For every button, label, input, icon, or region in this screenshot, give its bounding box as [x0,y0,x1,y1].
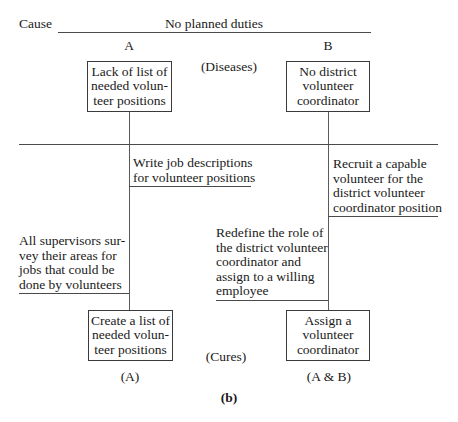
cause-label: Cause [19,17,52,32]
disease-box-b-text: No district volunteer coordinator [297,65,359,109]
divider-line [19,144,438,145]
step-recruit-line [328,216,438,217]
cure-box-b-text: Assign a volunteer coordinator [297,314,359,358]
cause-line [58,32,371,33]
cure-tag-b: (A & B) [300,370,358,385]
step-write-job-line [129,186,251,187]
cure-tag-a: (A) [110,370,150,385]
spine-b [328,112,329,310]
step-redefine-line [216,300,328,301]
cause-text: No planned duties [58,17,370,32]
step-recruit: Recruit a capable volunteer for the dist… [333,157,442,215]
step-write-job: Write job descriptions for volunteer pos… [133,156,255,185]
cure-box-a-text: Create a list of needed volun- teer posi… [91,314,170,358]
disease-box-a: Lack of list of needed volun- teer posit… [87,61,172,112]
column-a-label: A [115,39,143,54]
cure-box-a: Create a list of needed volun- teer posi… [88,310,173,361]
diseases-label: (Diseases) [196,60,262,75]
step-supervisors-line [19,293,129,294]
figure-caption: (b) [214,391,244,406]
step-redefine: Redefine the role of the district volunt… [216,226,328,299]
column-b-label: B [314,39,342,54]
cure-box-b: Assign a volunteer coordinator [286,310,370,361]
disease-box-a-text: Lack of list of needed volun- teer posit… [91,65,168,109]
cures-label: (Cures) [201,350,251,365]
spine-a [129,112,130,310]
step-supervisors: All supervisors sur- vey their areas for… [19,234,125,292]
disease-box-b: No district volunteer coordinator [286,61,370,112]
